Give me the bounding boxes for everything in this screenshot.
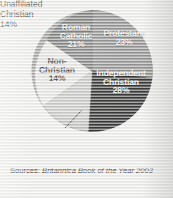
- sources-note: Sources: Britannica Book of the Year 200…: [10, 166, 170, 175]
- pie-chart-figure: Roman Catholic 21% Protestant 23% Indepe…: [0, 0, 173, 198]
- pie-label-non-christian: Non- Christian 14%: [33, 57, 81, 83]
- pie-label-roman-catholic: Roman Catholic 21%: [50, 23, 102, 49]
- pie-label-independent-christian-percent: 28%: [92, 86, 150, 95]
- pie-label-non-christian-percent: 14%: [33, 74, 81, 83]
- sources-citation-text: Britannica Book of the Year 2003: [42, 166, 153, 175]
- pie-label-independent-christian: Independent Christian 28%: [92, 69, 150, 95]
- pie-label-roman-catholic-percent: 21%: [50, 40, 102, 49]
- pie-label-protestant: Protestant 23%: [99, 29, 149, 46]
- sources-label: Sources:: [10, 166, 40, 175]
- pie-label-protestant-percent: 23%: [99, 38, 149, 47]
